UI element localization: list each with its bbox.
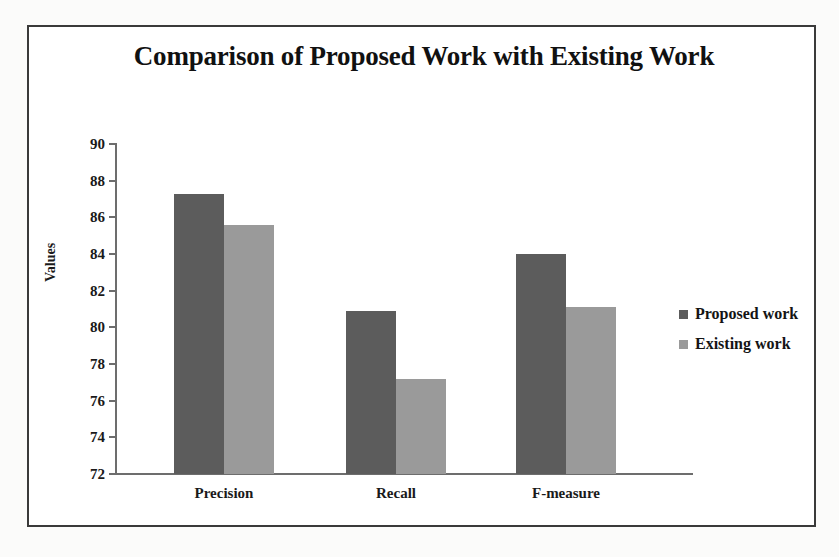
- bar-precision-proposed: [174, 194, 224, 475]
- bar-recall-proposed: [346, 311, 396, 474]
- bar-recall-existing: [396, 379, 446, 474]
- y-axis-tick-label: 78: [71, 356, 105, 373]
- legend-item: Proposed work: [679, 299, 814, 329]
- y-axis-tick-label: 90: [71, 136, 105, 153]
- y-axis-line: [115, 143, 117, 474]
- y-axis-tick-label: 82: [71, 283, 105, 300]
- y-axis-tick-label: 80: [71, 319, 105, 336]
- y-axis-tick-label: 74: [71, 429, 105, 446]
- legend-label: Existing work: [695, 335, 791, 353]
- chart-frame: Comparison of Proposed Work with Existin…: [27, 25, 816, 527]
- chart-legend: Proposed workExisting work: [679, 299, 814, 359]
- y-axis-tick-label: 88: [71, 173, 105, 190]
- x-axis-category-label: Precision: [174, 485, 274, 502]
- x-axis-category-label: Recall: [346, 485, 446, 502]
- y-axis-tick-label: 84: [71, 246, 105, 263]
- y-axis-title: Values: [43, 243, 59, 282]
- legend-label: Proposed work: [695, 305, 798, 323]
- x-axis-category-label: F-measure: [516, 485, 616, 502]
- y-axis-tick-label: 86: [71, 209, 105, 226]
- bar-precision-existing: [224, 225, 274, 474]
- plot-area: 90888684828078767472 Values PrecisionRec…: [29, 27, 818, 529]
- legend-swatch-icon: [679, 310, 688, 319]
- y-axis-tick-labels: 90888684828078767472: [69, 27, 105, 529]
- bar-f-measure-existing: [566, 307, 616, 474]
- bar-f-measure-proposed: [516, 254, 566, 474]
- y-axis-tick-label: 72: [71, 466, 105, 483]
- legend-item: Existing work: [679, 329, 814, 359]
- y-axis-tick-label: 76: [71, 393, 105, 410]
- page-background: Comparison of Proposed Work with Existin…: [0, 0, 839, 557]
- legend-swatch-icon: [679, 340, 688, 349]
